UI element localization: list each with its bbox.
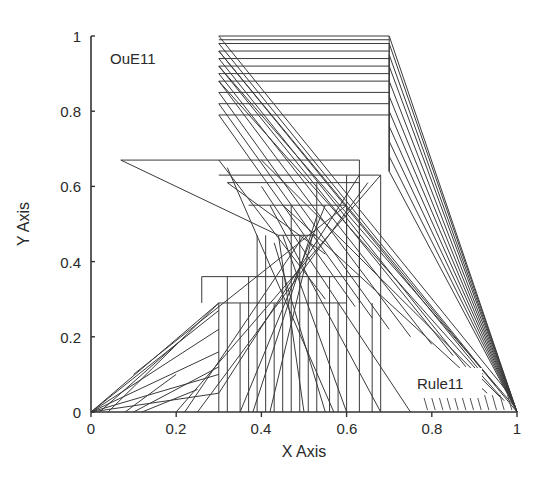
trajectory-segment xyxy=(219,59,466,367)
trajectory-segment xyxy=(121,160,279,235)
y-axis-title: Y Axis xyxy=(15,202,33,246)
hatch-mark xyxy=(492,395,496,410)
trajectory-segment xyxy=(219,74,432,345)
trajectory-segment xyxy=(389,44,517,412)
trajectory-segment xyxy=(219,36,509,393)
x-tick-label: 0.6 xyxy=(337,420,358,437)
chart-plot xyxy=(0,0,545,486)
trajectory-lines xyxy=(91,36,517,412)
x-tick-label: 1 xyxy=(513,420,521,437)
annotation-rule11: Rule11 xyxy=(415,375,465,392)
x-tick-label: 0.8 xyxy=(422,420,443,437)
y-tick-label: 0 xyxy=(41,404,81,421)
y-tick-label: 0.6 xyxy=(41,178,81,195)
trajectory-segment xyxy=(389,55,517,412)
trajectory-segment xyxy=(219,66,513,404)
x-tick-label: 0 xyxy=(87,420,95,437)
x-axis-title: X Axis xyxy=(282,443,326,461)
x-tick-label: 0.4 xyxy=(251,420,272,437)
annotation-oue11: OuE11 xyxy=(108,50,158,67)
y-tick-label: 1 xyxy=(41,28,81,45)
trajectory-segment xyxy=(261,186,410,412)
y-tick-label: 0.8 xyxy=(41,103,81,120)
trajectory-segment xyxy=(91,329,219,412)
hatch-mark xyxy=(500,395,504,410)
hatch-mark xyxy=(485,395,489,410)
y-tick-label: 0.4 xyxy=(41,254,81,271)
trajectory-segment xyxy=(389,66,517,412)
trajectory-segment xyxy=(219,81,411,337)
y-tick-label: 0.2 xyxy=(41,329,81,346)
trajectory-segment xyxy=(389,111,517,412)
trajectory-segment xyxy=(283,235,347,412)
x-tick-label: 0.2 xyxy=(166,420,187,437)
trajectory-segment xyxy=(219,81,504,401)
trajectory-segment xyxy=(389,96,517,412)
